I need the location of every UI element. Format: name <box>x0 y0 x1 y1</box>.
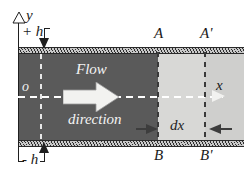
section-label-B: B <box>154 148 163 163</box>
dx-dimension-arrow-left-icon <box>146 124 158 134</box>
dx-dimension-tail-right <box>220 128 232 130</box>
section-line-ApBp <box>204 52 206 142</box>
y-axis-label: y <box>26 8 33 23</box>
section-label-B-prime: B' <box>200 148 212 163</box>
upper-wall-hatched <box>18 47 244 54</box>
x-axis-label: x <box>216 78 223 93</box>
origin-vertical-dashed-line <box>40 54 42 140</box>
dx-slice-label: dx <box>170 118 184 133</box>
flow-label-line2: direction <box>68 112 122 127</box>
lower-wall-hatched <box>18 140 244 147</box>
origin-label: o <box>22 80 29 94</box>
flow-direction-arrow-icon <box>63 82 119 112</box>
centerline-dashed <box>18 96 223 98</box>
upper-h-arrowhead-icon <box>39 38 49 49</box>
lower-wall-offset-label: - h <box>22 152 38 167</box>
y-axis-arrowhead-icon <box>12 12 24 23</box>
upper-wall-offset-label: + h <box>22 24 43 39</box>
flow-label-line1: Flow <box>76 62 107 77</box>
channel-flow-diagram: y + h - h x o Flow direction A A' B B' d… <box>0 0 244 173</box>
section-label-A-prime: A' <box>200 26 212 41</box>
lower-h-leader-horizontal <box>40 161 45 162</box>
y-axis-line <box>18 22 19 162</box>
section-label-A: A <box>154 26 163 41</box>
